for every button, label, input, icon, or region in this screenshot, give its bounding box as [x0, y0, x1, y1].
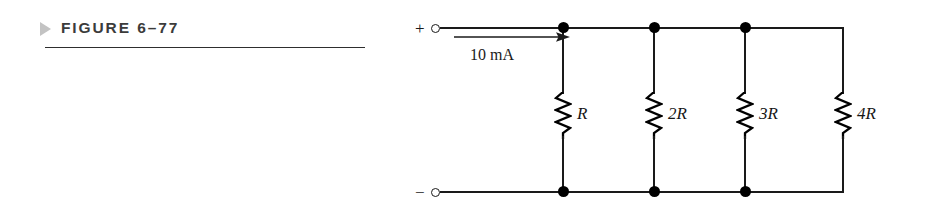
branch-wire-bottom-1	[562, 136, 564, 193]
junction-dot-icon-bottom-2	[649, 186, 660, 197]
branch-wire-top-1	[562, 28, 564, 94]
junction-dot-icon-top-3	[740, 22, 751, 33]
resistor-zigzag-icon-4	[834, 92, 852, 139]
junction-dot-icon-top-1	[558, 22, 569, 33]
resistor-zigzag-icon-2	[645, 92, 663, 139]
branch-wire-bottom-4	[842, 136, 844, 193]
branch-wire-bottom-2	[653, 136, 655, 193]
arrow-right-icon	[452, 29, 572, 45]
branch-wire-top-3	[744, 28, 746, 94]
circuit-diagram: + − 10 mA R 2R	[0, 0, 927, 208]
resistor-label-4: 4R	[857, 105, 876, 122]
resistor-label-1: R	[577, 105, 587, 122]
junction-dot-icon-bottom-3	[740, 186, 751, 197]
junction-dot-icon-top-2	[649, 22, 660, 33]
negative-terminal-label: −	[415, 184, 425, 201]
open-terminal-icon-negative	[431, 188, 440, 197]
open-terminal-icon-positive	[431, 24, 440, 33]
resistor-zigzag-icon-3	[736, 92, 754, 139]
resistor-label-2: 2R	[668, 105, 687, 122]
figure-page: FIGURE 6–77 + − 10 mA R	[0, 0, 927, 208]
current-value-label: 10 mA	[470, 47, 514, 63]
resistor-label-3: 3R	[759, 105, 778, 122]
resistor-zigzag-icon-1	[554, 92, 572, 139]
positive-terminal-label: +	[415, 20, 425, 37]
branch-wire-top-2	[653, 28, 655, 94]
branch-wire-bottom-3	[744, 136, 746, 193]
bottom-rail-wire	[440, 191, 844, 193]
junction-dot-icon-bottom-1	[558, 186, 569, 197]
branch-wire-top-4	[842, 28, 844, 94]
